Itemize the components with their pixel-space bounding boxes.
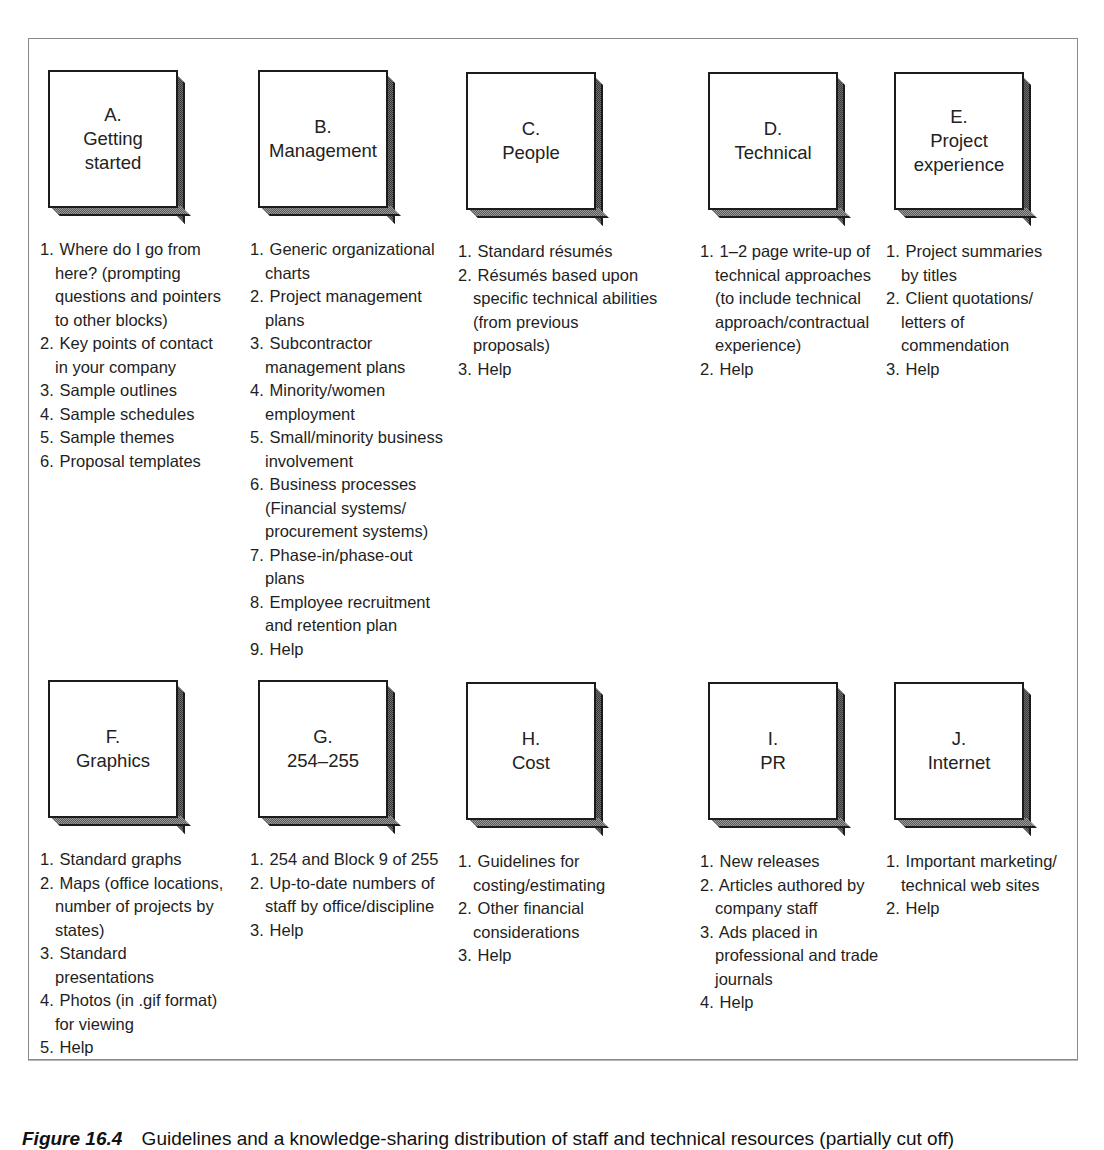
list-item-number: 2.	[250, 872, 265, 896]
list-item-number: 2.	[40, 332, 55, 356]
list-item-text: Help	[270, 640, 304, 658]
block-title-line: Getting	[83, 127, 143, 151]
list-item-number: 9.	[250, 638, 265, 662]
list-item-number: 1.	[700, 240, 715, 264]
list-item: 1. Guidelines for costing/estimating	[458, 850, 658, 897]
list-item: 4. Minority/women employment	[250, 379, 450, 426]
list-item-text: Help	[60, 1038, 94, 1056]
block-item-list: 1. Where do I go from here? (prompting q…	[40, 238, 230, 473]
list-item-text: Help	[720, 993, 754, 1011]
block-letter: A.	[104, 103, 121, 127]
list-item-text: Key points of contact in your company	[55, 334, 213, 376]
list-item-text: Where do I go from here? (prompting ques…	[55, 240, 221, 329]
block-title-box: B.Management	[258, 70, 388, 208]
list-item-number: 4.	[250, 379, 265, 403]
list-item-number: 6.	[40, 450, 55, 474]
block-title-line: Cost	[512, 751, 550, 775]
list-item: 3. Ads placed in professional and trade …	[700, 921, 890, 992]
list-item-number: 2.	[700, 358, 715, 382]
block-title-box: H.Cost	[466, 682, 596, 820]
block-i: I.PR1. New releases2. Articles authored …	[700, 682, 890, 1015]
list-item-number: 5.	[40, 426, 55, 450]
list-item-number: 1.	[458, 240, 473, 264]
list-item-text: Help	[906, 899, 940, 917]
block-item-list: 1. Project summaries by titles2. Client …	[886, 240, 1061, 381]
list-item: 4. Photos (in .gif format) for viewing	[40, 989, 230, 1036]
block-item-list: 1. Guidelines for costing/estimating2. O…	[458, 850, 658, 968]
list-item-number: 1.	[886, 240, 901, 264]
block-item-list: 1. Generic organizational charts2. Proje…	[250, 238, 450, 661]
figure-caption: Figure 16.4 Guidelines and a knowledge-s…	[22, 1128, 954, 1150]
list-item-number: 4.	[700, 991, 715, 1015]
block-title-box: G.254–255	[258, 680, 388, 818]
list-item: 5. Sample themes	[40, 426, 230, 450]
block-a: A.Gettingstarted1. Where do I go from he…	[40, 70, 230, 473]
list-item: 3. Help	[886, 358, 1061, 382]
block-title-line: Management	[269, 139, 377, 163]
block-item-list: 1. 254 and Block 9 of 2552. Up-to-date n…	[250, 848, 450, 942]
block-box: F.Graphics	[48, 680, 184, 840]
list-item: 2. Project management plans	[250, 285, 450, 332]
block-title-line: 254–255	[287, 749, 359, 773]
list-item-text: Up-to-date numbers of staff by office/di…	[265, 874, 435, 916]
list-item-number: 5.	[250, 426, 265, 450]
block-title-line: Internet	[928, 751, 991, 775]
list-item-text: Maps (office locations, number of projec…	[55, 874, 223, 939]
block-j: J.Internet1. Important marketing/ techni…	[886, 682, 1061, 921]
block-title-box: A.Gettingstarted	[48, 70, 178, 208]
list-item-text: Sample themes	[60, 428, 175, 446]
list-item: 1. Generic organizational charts	[250, 238, 450, 285]
list-item-number: 3.	[458, 944, 473, 968]
block-title-box: D.Technical	[708, 72, 838, 210]
block-box: H.Cost	[466, 682, 602, 842]
list-item-number: 1.	[40, 848, 55, 872]
list-item-text: Business processes (Financial systems/ p…	[265, 475, 428, 540]
list-item-number: 3.	[250, 332, 265, 356]
list-item-number: 3.	[250, 919, 265, 943]
list-item: 5. Help	[40, 1036, 230, 1060]
list-item: 3. Standard presentations	[40, 942, 230, 989]
list-item-number: 1.	[250, 848, 265, 872]
list-item-text: Photos (in .gif format) for viewing	[55, 991, 217, 1033]
block-g: G.254–2551. 254 and Block 9 of 2552. Up-…	[250, 680, 450, 942]
block-item-list: 1. New releases2. Articles authored by c…	[700, 850, 890, 1015]
list-item-text: Résumés based upon specific technical ab…	[473, 266, 657, 355]
block-letter: D.	[764, 117, 783, 141]
block-letter: F.	[106, 725, 120, 749]
list-item: 1. New releases	[700, 850, 890, 874]
block-title-line: Graphics	[76, 749, 150, 773]
list-item-text: Help	[478, 360, 512, 378]
list-item-text: Generic organizational charts	[265, 240, 435, 282]
list-item-text: Minority/women employment	[265, 381, 385, 423]
list-item-text: Employee recruitment and retention plan	[265, 593, 430, 635]
block-d: D.Technical1. 1–2 page write-up of techn…	[700, 72, 890, 381]
list-item: 2. Client quotations/ letters of commend…	[886, 287, 1061, 358]
list-item: 1. Standard graphs	[40, 848, 230, 872]
list-item: 2. Other financial considerations	[458, 897, 658, 944]
list-item: 3. Help	[458, 358, 658, 382]
list-item: 1. 254 and Block 9 of 255	[250, 848, 450, 872]
list-item-number: 7.	[250, 544, 265, 568]
list-item-text: Other financial considerations	[473, 899, 584, 941]
block-title-box: F.Graphics	[48, 680, 178, 818]
block-b: B.Management1. Generic organizational ch…	[250, 70, 450, 661]
list-item-text: Phase-in/phase-out plans	[265, 546, 413, 588]
list-item: 4. Help	[700, 991, 890, 1015]
list-item-number: 3.	[700, 921, 715, 945]
figure-label: Figure 16.4	[22, 1128, 122, 1149]
list-item-number: 1.	[700, 850, 715, 874]
block-letter: H.	[522, 727, 541, 751]
list-item-number: 1.	[250, 238, 265, 262]
block-item-list: 1. Important marketing/ technical web si…	[886, 850, 1061, 921]
block-box: B.Management	[258, 70, 394, 230]
list-item: 5. Small/minority business involvement	[250, 426, 450, 473]
list-item-text: Sample schedules	[60, 405, 195, 423]
list-item-text: Guidelines for costing/estimating	[473, 852, 605, 894]
list-item-text: Subcontractor management plans	[265, 334, 405, 376]
list-item-number: 6.	[250, 473, 265, 497]
block-letter: J.	[952, 727, 966, 751]
block-letter: C.	[522, 117, 541, 141]
block-box: D.Technical	[708, 72, 844, 232]
list-item: 1. Where do I go from here? (prompting q…	[40, 238, 230, 332]
list-item-text: New releases	[720, 852, 820, 870]
